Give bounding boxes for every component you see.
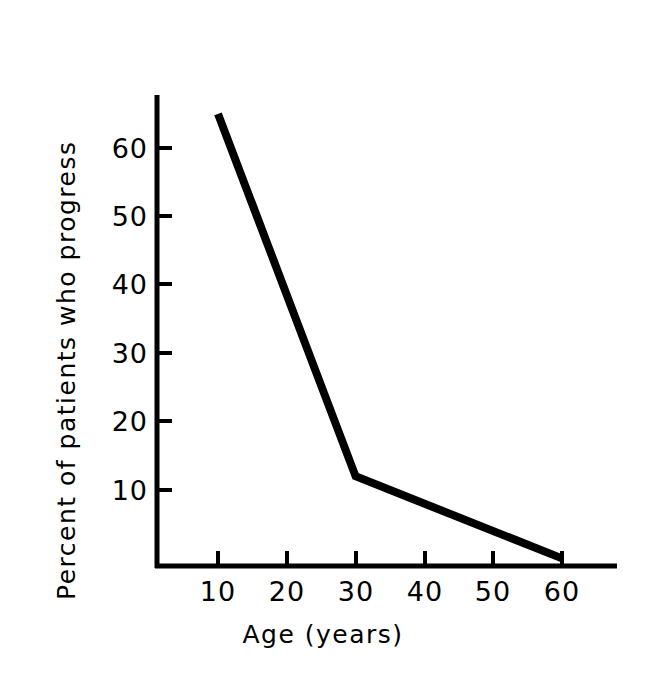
y-axis-title: Percent of patients who progress bbox=[52, 141, 81, 600]
x-axis-title: Age (years) bbox=[0, 620, 646, 649]
data-series-line bbox=[218, 114, 562, 559]
y-tick-label-60: 60 bbox=[112, 133, 148, 164]
y-tick-label-10: 10 bbox=[112, 475, 148, 506]
x-axis-tick-labels: 10 20 30 40 50 60 bbox=[200, 576, 580, 607]
y-tick-label-40: 40 bbox=[112, 269, 148, 300]
y-tick-label-50: 50 bbox=[112, 201, 148, 232]
line-chart-plot: 60 50 40 30 20 10 10 20 30 40 50 60 bbox=[0, 0, 646, 695]
x-tick-label-20: 20 bbox=[269, 576, 305, 607]
y-tick-label-20: 20 bbox=[112, 406, 148, 437]
x-tick-label-40: 40 bbox=[407, 576, 443, 607]
x-tick-label-50: 50 bbox=[475, 576, 511, 607]
x-tick-label-60: 60 bbox=[544, 576, 580, 607]
axis-lines bbox=[155, 95, 617, 568]
y-tick-label-30: 30 bbox=[112, 338, 148, 369]
chart-figure: 60 50 40 30 20 10 10 20 30 40 50 60 Pe bbox=[0, 0, 646, 695]
x-tick-label-10: 10 bbox=[200, 576, 236, 607]
y-axis-tick-labels: 60 50 40 30 20 10 bbox=[112, 133, 148, 506]
x-tick-label-30: 30 bbox=[338, 576, 374, 607]
